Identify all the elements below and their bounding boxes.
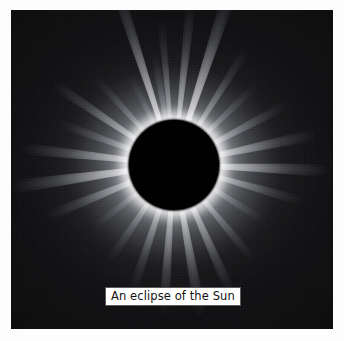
solar-eclipse-photograph: An eclipse of the Sun [11, 10, 333, 329]
image-caption: An eclipse of the Sun [105, 287, 241, 306]
page-canvas: An eclipse of the Sun [0, 0, 344, 341]
lunar-disk [129, 120, 219, 210]
